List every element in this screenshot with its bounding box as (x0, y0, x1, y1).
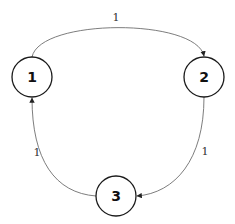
node-1-label: 1 (27, 69, 37, 85)
edge-3-to-1: 1 (32, 98, 96, 196)
edge-2-to-3-label: 1 (202, 145, 209, 158)
edge-3-to-1-label: 1 (34, 146, 41, 159)
graph-diagram: 1 1 1 1 2 3 (0, 0, 235, 224)
edge-1-to-2: 1 (32, 11, 204, 57)
node-1[interactable]: 1 (12, 57, 52, 97)
edge-2-to-3-line (137, 97, 204, 196)
edge-2-to-3: 1 (137, 97, 209, 196)
node-2[interactable]: 2 (184, 57, 224, 97)
edge-3-to-1-line (32, 98, 96, 196)
node-2-label: 2 (199, 69, 209, 85)
node-3[interactable]: 3 (96, 176, 136, 216)
edge-1-to-2-line (32, 28, 204, 57)
edge-1-to-2-label: 1 (113, 11, 120, 24)
node-3-label: 3 (111, 188, 121, 204)
